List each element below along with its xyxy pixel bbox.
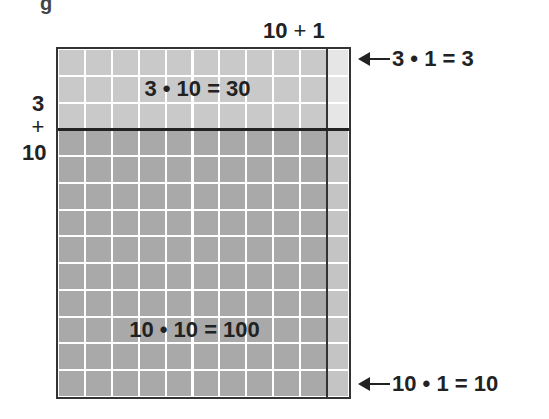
bottom-left-cell — [193, 129, 220, 156]
bottom-left-cell — [300, 343, 327, 370]
bottom-left-cell — [139, 236, 166, 263]
bottom-left-cell — [139, 156, 166, 183]
bottom-left-cell — [219, 156, 246, 183]
bottom-left-cell — [139, 210, 166, 237]
bottom-left-cell — [273, 370, 300, 397]
top-left-cell — [219, 103, 246, 130]
bottom-right-cell — [327, 236, 349, 263]
top-left-cell — [219, 49, 246, 76]
bottom-left-cell — [246, 290, 273, 317]
bottom-right-cell — [327, 370, 349, 397]
bottom-left-cell — [273, 129, 300, 156]
bottom-left-cell — [300, 210, 327, 237]
bottom-left-cell — [166, 129, 193, 156]
title-fragment: g — [40, 0, 52, 15]
callout-bottom-right: 10 • 1 = 10 — [392, 371, 498, 397]
bottom-left-cell — [112, 290, 139, 317]
bottom-left-cell — [58, 236, 85, 263]
bottom-left-cell — [246, 236, 273, 263]
bottom-left-cell — [246, 370, 273, 397]
bottom-left-cell — [273, 236, 300, 263]
bottom-left-cell — [246, 156, 273, 183]
bottom-left-cell — [139, 343, 166, 370]
bottom-left-cell — [246, 263, 273, 290]
bottom-left-cell — [193, 290, 220, 317]
arrow-left-icon — [368, 383, 390, 385]
bottom-left-cell — [300, 263, 327, 290]
arrow-left-icon — [368, 58, 390, 60]
top-left-cell — [166, 103, 193, 130]
bottom-left-cell — [219, 236, 246, 263]
bottom-left-cell — [139, 290, 166, 317]
top-right-cell — [327, 49, 349, 76]
bottom-left-cell — [273, 317, 300, 344]
top-left-cell — [193, 49, 220, 76]
top-label-left: 10 — [263, 18, 287, 43]
top-left-cell — [273, 103, 300, 130]
bottom-left-cell — [166, 370, 193, 397]
bottom-left-cell — [58, 129, 85, 156]
bottom-left-cell — [300, 129, 327, 156]
bottom-left-cell — [139, 183, 166, 210]
bottom-left-cell — [166, 183, 193, 210]
top-left-cell — [273, 76, 300, 103]
bottom-left-cell — [112, 210, 139, 237]
horizontal-divider — [58, 128, 349, 131]
bottom-left-cell — [58, 156, 85, 183]
bottom-left-cell — [193, 343, 220, 370]
bottom-left-cell — [166, 156, 193, 183]
top-left-cell — [246, 49, 273, 76]
bottom-left-cell — [58, 183, 85, 210]
top-left-cell — [85, 103, 112, 130]
region-label-top-left: 3 • 10 = 30 — [144, 76, 250, 102]
bottom-left-cell — [85, 210, 112, 237]
bottom-left-cell — [112, 263, 139, 290]
top-label-right: 1 — [313, 18, 325, 43]
vertical-divider — [326, 49, 328, 397]
bottom-left-cell — [273, 290, 300, 317]
top-right-cell — [327, 76, 349, 103]
bottom-left-cell — [85, 290, 112, 317]
bottom-left-cell — [246, 129, 273, 156]
region-label-bottom-left: 10 • 10 = 100 — [129, 317, 260, 343]
bottom-left-cell — [300, 290, 327, 317]
top-left-cell — [112, 49, 139, 76]
bottom-left-cell — [112, 183, 139, 210]
bottom-left-cell — [219, 370, 246, 397]
bottom-left-cell — [300, 156, 327, 183]
bottom-left-cell — [112, 129, 139, 156]
top-left-cell — [58, 103, 85, 130]
bottom-left-cell — [273, 156, 300, 183]
bottom-right-cell — [327, 129, 349, 156]
top-label: 10 + 1 — [263, 18, 325, 44]
bottom-right-cell — [327, 290, 349, 317]
top-label-op: + — [294, 18, 307, 43]
bottom-left-cell — [58, 290, 85, 317]
bottom-left-cell — [300, 317, 327, 344]
bottom-left-cell — [112, 370, 139, 397]
bottom-left-cell — [85, 370, 112, 397]
bottom-right-cell — [327, 156, 349, 183]
bottom-left-cell — [273, 263, 300, 290]
bottom-left-cell — [219, 343, 246, 370]
top-left-cell — [300, 49, 327, 76]
top-left-cell — [58, 49, 85, 76]
bottom-left-cell — [85, 129, 112, 156]
bottom-left-cell — [85, 317, 112, 344]
callout-top-right: 3 • 1 = 3 — [392, 46, 474, 72]
bottom-left-cell — [85, 156, 112, 183]
top-left-cell — [112, 76, 139, 103]
bottom-left-cell — [300, 236, 327, 263]
top-left-cell — [300, 76, 327, 103]
bottom-left-cell — [193, 370, 220, 397]
bottom-left-cell — [166, 210, 193, 237]
top-left-cell — [139, 49, 166, 76]
bottom-left-cell — [166, 263, 193, 290]
top-left-cell — [193, 103, 220, 130]
bottom-left-cell — [139, 129, 166, 156]
bottom-right-cell — [327, 183, 349, 210]
top-left-cell — [58, 76, 85, 103]
bottom-left-cell — [300, 183, 327, 210]
bottom-left-cell — [58, 317, 85, 344]
bottom-left-cell — [193, 210, 220, 237]
